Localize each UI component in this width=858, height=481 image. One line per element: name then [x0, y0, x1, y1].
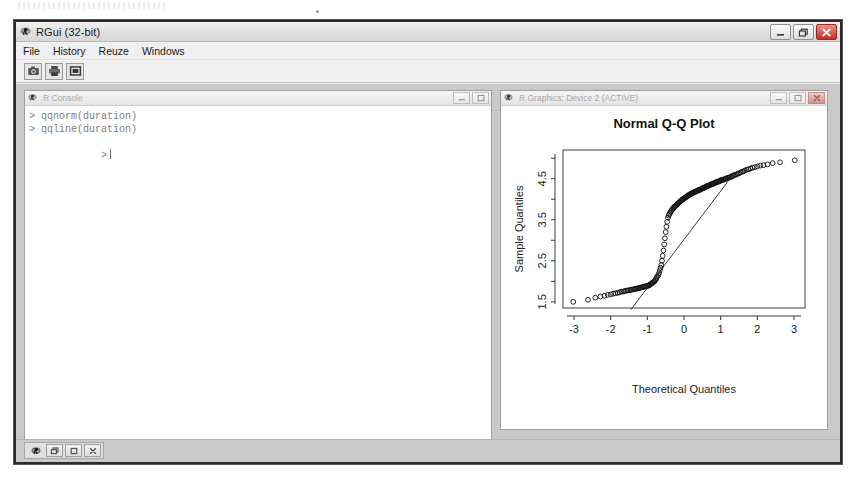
svg-text:3.5: 3.5	[536, 212, 548, 227]
svg-text:1: 1	[718, 323, 724, 335]
menu-item-file[interactable]: File	[23, 45, 40, 57]
close-icon	[812, 94, 822, 102]
maximize-window-button[interactable]	[65, 444, 82, 457]
graphics-window-title: R Graphics: Device 2 (ACTIVE)	[519, 93, 638, 103]
open-script-button[interactable]	[24, 63, 42, 80]
open-script-icon	[27, 65, 40, 77]
graphics-plot-area: Normal Q-Q Plot -3-2-10123 1.52.53.54.5 …	[501, 106, 827, 429]
svg-text:4.5: 4.5	[536, 171, 548, 186]
restore-icon	[798, 28, 809, 37]
maximize-icon	[793, 94, 803, 102]
plot-title: Normal Q-Q Plot	[613, 116, 715, 131]
r-logo-icon	[28, 93, 39, 104]
console-window-controls	[453, 92, 489, 104]
close-window-button[interactable]	[84, 444, 101, 457]
close-button[interactable]	[816, 24, 837, 40]
console-titlebar[interactable]: R Console	[25, 91, 491, 106]
close-icon	[88, 447, 98, 455]
menu-item-windows[interactable]: Windows	[142, 45, 185, 57]
graphics-titlebar[interactable]: R Graphics: Device 2 (ACTIVE)	[501, 91, 827, 106]
y-axis-label: Sample Quantiles	[513, 185, 525, 272]
graphics-minimize-button[interactable]	[770, 92, 787, 104]
rgui-main-window: RGui (32-bit)	[14, 20, 842, 464]
minimized-window-bar[interactable]	[24, 442, 104, 459]
console-minimize-button[interactable]	[453, 92, 470, 104]
console-window-title: R Console	[43, 93, 83, 103]
tile-windows-icon	[69, 65, 82, 77]
r-logo-icon	[27, 444, 44, 457]
menu-item-reuze[interactable]: Reuze	[99, 45, 129, 57]
svg-text:-1: -1	[642, 323, 652, 335]
graphics-close-button[interactable]	[808, 92, 825, 104]
console-prompt: >	[101, 150, 107, 161]
main-window-controls	[770, 24, 837, 40]
normal-qq-plot: Normal Q-Q Plot -3-2-10123 1.52.53.54.5 …	[501, 106, 827, 429]
console-output-area[interactable]: > qqnorm(duration) > qqline(duration) >	[25, 106, 491, 445]
main-titlebar[interactable]: RGui (32-bit)	[16, 22, 840, 42]
text-cursor	[110, 149, 111, 159]
maximize-icon	[69, 447, 79, 455]
restore-window-button[interactable]	[46, 444, 63, 457]
scan-dot-artifact	[316, 10, 319, 13]
r-logo-icon	[20, 26, 31, 37]
svg-text:1.5: 1.5	[536, 294, 548, 309]
restore-icon	[50, 447, 60, 455]
print-button[interactable]	[45, 63, 63, 80]
r-graphics-window[interactable]: R Graphics: Device 2 (ACTIVE)	[500, 90, 828, 430]
svg-text:2: 2	[754, 323, 760, 335]
minimize-button[interactable]	[770, 24, 791, 40]
r-console-window[interactable]: R Console	[24, 90, 492, 446]
maximize-icon	[476, 94, 486, 102]
mdi-bottom-bar	[16, 440, 840, 462]
menu-item-history[interactable]: History	[53, 45, 86, 57]
close-icon	[821, 28, 832, 37]
console-prompt-line: >	[29, 136, 491, 175]
r-logo-icon	[504, 93, 515, 104]
graphics-maximize-button[interactable]	[789, 92, 806, 104]
minimize-icon	[775, 28, 786, 37]
scan-artifact	[18, 2, 168, 9]
console-line: > qqnorm(duration)	[29, 110, 491, 123]
menubar: File History Reuze Windows	[16, 42, 840, 60]
print-icon	[48, 65, 61, 77]
svg-text:2.5: 2.5	[536, 253, 548, 268]
restore-button[interactable]	[793, 24, 814, 40]
svg-text:-2: -2	[606, 323, 616, 335]
minimize-icon	[774, 94, 784, 102]
screen-root: RGui (32-bit)	[0, 0, 858, 481]
tile-windows-button[interactable]	[66, 63, 84, 80]
console-maximize-button[interactable]	[472, 92, 489, 104]
x-axis-label: Theoretical Quantiles	[632, 383, 736, 395]
toolbar	[16, 60, 840, 83]
graphics-window-controls	[770, 92, 825, 104]
mdi-client-area: R Console	[16, 84, 840, 462]
svg-text:-3: -3	[569, 323, 579, 335]
main-window-title: RGui (32-bit)	[36, 26, 100, 38]
console-line: > qqline(duration)	[29, 123, 491, 136]
svg-text:0: 0	[681, 323, 687, 335]
minimize-icon	[457, 94, 467, 102]
svg-text:3: 3	[791, 323, 797, 335]
